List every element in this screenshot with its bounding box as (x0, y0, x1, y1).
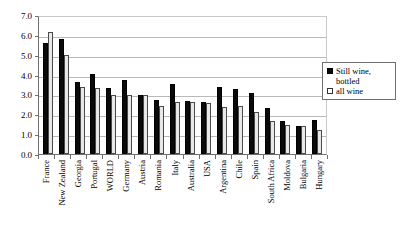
y-axis: 7.06.05.04.03.02.01.00.0 (0, 0, 38, 230)
legend-swatch-open-square-icon (327, 88, 333, 94)
bar-all-wine (143, 95, 148, 154)
x-tick-mark (247, 155, 248, 159)
bar-all-wine (64, 55, 69, 154)
x-label-slot: Spain (247, 160, 263, 230)
x-tick-mark (54, 155, 55, 159)
bar-all-wine (238, 106, 243, 154)
bar-all-wine (190, 102, 195, 154)
x-label-slot: Australia (183, 160, 199, 230)
x-tick-mark (231, 155, 232, 159)
x-tick-label: Portugal (90, 160, 99, 189)
x-axis-ticks (38, 155, 327, 159)
legend-label-still-wine: Still wine, bottled (336, 66, 392, 86)
bar-all-wine (159, 106, 164, 154)
x-tick-mark (199, 155, 200, 159)
bar-all-wine (95, 88, 100, 154)
legend-swatch-filled-square-icon (327, 68, 333, 74)
y-tick-label: 2.0 (21, 111, 32, 120)
x-tick-label: Georgia (74, 160, 83, 187)
x-tick-label: WORLD (106, 160, 115, 191)
bar-all-wine (206, 103, 211, 154)
x-label-slot: Romania (150, 160, 166, 230)
y-tick-label: 5.0 (21, 51, 32, 60)
y-tick-label: 6.0 (21, 31, 32, 40)
bar-group (246, 17, 262, 154)
x-label-slot: Portugal (86, 160, 102, 230)
bar-all-wine (111, 95, 116, 154)
bar-group (167, 17, 183, 154)
x-tick-mark (38, 155, 39, 159)
bar-all-wine (80, 87, 85, 154)
bar-group (277, 17, 293, 154)
y-tick-label: 7.0 (21, 12, 32, 21)
bar-group (262, 17, 278, 154)
bar-group (56, 17, 72, 154)
legend-label-all-wine: all wine (336, 86, 363, 96)
x-tick-label: Hungary (315, 160, 324, 190)
x-tick-label: Spain (251, 160, 260, 179)
bar-group (151, 17, 167, 154)
x-tick-label: USA (202, 160, 211, 177)
x-tick-label: France (42, 160, 51, 183)
x-label-slot: Bulgaria (295, 160, 311, 230)
x-label-slot: Germany (118, 160, 134, 230)
x-tick-mark (327, 155, 328, 159)
x-label-slot: WORLD (102, 160, 118, 230)
bar-group (214, 17, 230, 154)
x-tick-label: New Zealand (58, 160, 67, 206)
chart-legend: Still wine, bottled all wine (322, 62, 396, 100)
x-tick-label: Italy (170, 160, 179, 176)
bar-all-wine (285, 125, 290, 154)
y-tick-label: 3.0 (21, 91, 32, 100)
bar-group (72, 17, 88, 154)
x-label-slot: Chile (231, 160, 247, 230)
x-tick-mark (183, 155, 184, 159)
bar-group (119, 17, 135, 154)
x-label-slot: France (38, 160, 54, 230)
x-tick-mark (166, 155, 167, 159)
x-label-slot: Hungary (311, 160, 327, 230)
x-tick-label: Germany (122, 160, 131, 192)
bar-group (198, 17, 214, 154)
x-tick-mark (118, 155, 119, 159)
x-tick-mark (102, 155, 103, 159)
x-tick-mark (215, 155, 216, 159)
bar-group (135, 17, 151, 154)
bar-all-wine (222, 107, 227, 154)
x-label-slot: Austria (134, 160, 150, 230)
bar-all-wine (301, 126, 306, 154)
x-label-slot: USA (199, 160, 215, 230)
bar-group (230, 17, 246, 154)
x-label-slot: Argentina (215, 160, 231, 230)
bar-group (103, 17, 119, 154)
x-tick-mark (134, 155, 135, 159)
x-label-slot: Moldova (279, 160, 295, 230)
bar-all-wine (254, 112, 259, 154)
bar-all-wine (270, 121, 275, 154)
bar-group (87, 17, 103, 154)
bar-group (40, 17, 56, 154)
bar-group (293, 17, 309, 154)
legend-item-still-wine: Still wine, bottled (327, 66, 392, 86)
y-tick-label: 1.0 (21, 131, 32, 140)
legend-item-all-wine: all wine (327, 86, 392, 96)
bar-chart: 7.06.05.04.03.02.01.00.0 FranceNew Zeala… (0, 0, 401, 230)
x-axis-labels: FranceNew ZealandGeorgiaPortugalWORLDGer… (38, 160, 327, 230)
x-label-slot: Georgia (70, 160, 86, 230)
y-tick-label: 4.0 (21, 71, 32, 80)
x-tick-label: Bulgaria (299, 160, 308, 189)
x-tick-mark (279, 155, 280, 159)
x-tick-mark (86, 155, 87, 159)
bar-group (182, 17, 198, 154)
bar-all-wine (175, 102, 180, 154)
x-tick-label: Moldova (283, 160, 292, 191)
plot-area (38, 16, 327, 155)
x-label-slot: New Zealand (54, 160, 70, 230)
bar-series-container (39, 17, 326, 154)
bar-all-wine (127, 95, 132, 154)
x-tick-label: South Africa (267, 160, 276, 203)
bar-all-wine (48, 32, 53, 154)
x-tick-label: Chile (235, 160, 244, 178)
x-tick-mark (70, 155, 71, 159)
x-tick-label: Argentina (218, 160, 227, 194)
